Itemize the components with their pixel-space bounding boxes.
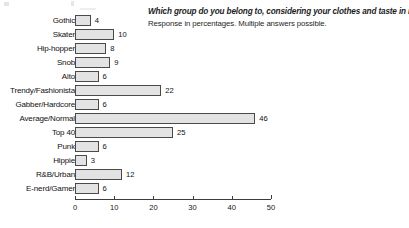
x-axis: 01020304050: [75, 199, 271, 200]
bar-category-label: Trendy/Fashionista: [0, 85, 75, 96]
x-axis-tick-label: 10: [110, 203, 118, 212]
bar-value-label: 10: [118, 30, 126, 40]
bar: [75, 57, 110, 68]
bar-value-label: 12: [126, 170, 134, 180]
bar-category-label: R&B/Urban: [0, 169, 75, 180]
plot-area: Gothic4Skater10Hip-hopper8Snob9Alto6Tren…: [0, 14, 409, 198]
bar-category-label: Average/Normal: [0, 113, 75, 124]
x-axis-tick: [271, 196, 272, 199]
bar-row: Trendy/Fashionista22: [0, 84, 409, 98]
bar-value-label: 25: [177, 128, 185, 138]
x-axis-tick-label: 30: [188, 203, 196, 212]
bar-category-label: Snob: [0, 57, 75, 68]
bar-category-label: E-nerd/Gamer: [0, 183, 75, 194]
bar: [75, 113, 255, 124]
bar-row: Alto6: [0, 70, 409, 84]
bar-category-label: Hip-hopper: [0, 43, 75, 54]
bar-value-label: 6: [103, 184, 107, 194]
bar: [75, 71, 99, 82]
x-axis-tick: [193, 196, 194, 199]
x-axis-tick-label: 40: [228, 203, 236, 212]
x-axis-tick-label: 50: [267, 203, 275, 212]
x-axis-tick-label: 0: [73, 203, 77, 212]
scan-artifact: [71, 1, 74, 6]
x-axis-tick: [232, 196, 233, 199]
scan-artifact: [4, 2, 9, 6]
bar: [75, 99, 99, 110]
bar-value-label: 22: [165, 86, 173, 96]
bar-value-label: 6: [103, 142, 107, 152]
x-axis-tick: [114, 196, 115, 199]
bar-row: Gabber/Hardcore6: [0, 98, 409, 112]
bar-value-label: 6: [103, 100, 107, 110]
x-axis-tick: [153, 196, 154, 199]
bar-category-label: Alto: [0, 71, 75, 82]
bar-category-label: Gabber/Hardcore: [0, 99, 75, 110]
bar-category-label: Top 40: [0, 127, 75, 138]
bar-row: E-nerd/Gamer6: [0, 182, 409, 196]
bar-value-label: 4: [95, 16, 99, 26]
bar: [75, 155, 87, 166]
bar-row: Gothic4: [0, 14, 409, 28]
bar: [75, 183, 99, 194]
bar-value-label: 6: [103, 72, 107, 82]
bar-row: Snob9: [0, 56, 409, 70]
bar-category-label: Punk: [0, 141, 75, 152]
bar: [75, 43, 106, 54]
bar: [75, 141, 99, 152]
bar-chart-figure: Which group do you belong to, considerin…: [0, 0, 409, 228]
bar-row: Hippie3: [0, 154, 409, 168]
bar-row: Top 4025: [0, 126, 409, 140]
x-axis-tick: [75, 196, 76, 199]
bar-value-label: 9: [114, 58, 118, 68]
bar-category-label: Gothic: [0, 15, 75, 26]
bar: [75, 29, 114, 40]
scan-artifact: [80, 8, 96, 10]
bar-row: Skater10: [0, 28, 409, 42]
x-axis-tick-label: 20: [149, 203, 157, 212]
bar-category-label: Skater: [0, 29, 75, 40]
bar: [75, 85, 161, 96]
bar-row: Average/Normal46: [0, 112, 409, 126]
bar: [75, 169, 122, 180]
bar: [75, 127, 173, 138]
bar-category-label: Hippie: [0, 155, 75, 166]
bar-row: Punk6: [0, 140, 409, 154]
bar-row: Hip-hopper8: [0, 42, 409, 56]
bar-row: R&B/Urban12: [0, 168, 409, 182]
bar-value-label: 3: [91, 156, 95, 166]
bar: [75, 15, 91, 26]
bar-value-label: 46: [259, 114, 267, 124]
bar-value-label: 8: [110, 44, 114, 54]
